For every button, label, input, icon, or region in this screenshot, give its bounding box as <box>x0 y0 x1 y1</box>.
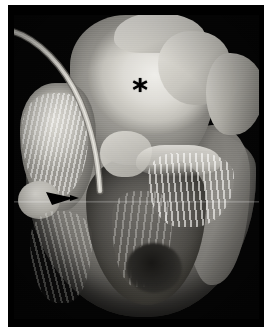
heart-specimen <box>8 5 264 327</box>
papillary-muscle-recess <box>126 243 182 293</box>
plate-edge-left <box>8 5 14 327</box>
arrow-annotation-marker <box>46 188 80 208</box>
figure-container: * <box>0 0 268 333</box>
right-atrial-appendage-region <box>206 53 264 135</box>
plate-edge-right <box>259 5 264 327</box>
asterisk-annotation-marker: * <box>127 76 153 104</box>
photograph-plate: * <box>8 5 264 327</box>
plate-edge-top <box>8 5 264 15</box>
plate-edge-bottom <box>8 319 264 327</box>
